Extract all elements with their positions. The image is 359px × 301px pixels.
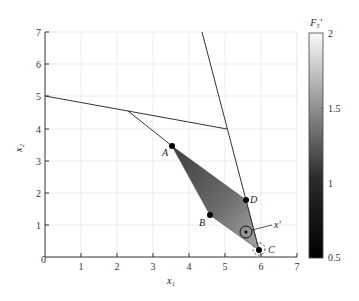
svg-text:4: 4	[36, 124, 41, 135]
svg-text:4: 4	[187, 261, 192, 272]
point-c	[256, 247, 262, 253]
svg-text:1: 1	[328, 178, 333, 189]
colorbar	[309, 33, 323, 258]
label-c: C	[268, 244, 275, 255]
label-xprime: x'	[273, 219, 281, 230]
svg-text:0: 0	[41, 254, 46, 265]
svg-text:1: 1	[36, 220, 41, 231]
svg-text:3: 3	[36, 156, 41, 167]
svg-text:6: 6	[259, 261, 264, 272]
svg-text:0.5: 0.5	[328, 252, 341, 263]
point-d	[243, 197, 249, 203]
chart: 7 6 5 4 3 2 1 0 1 2 3 4 5 6 7 x₁ x₂ A D …	[0, 0, 359, 301]
label-a: A	[161, 147, 169, 158]
svg-text:5: 5	[223, 261, 228, 272]
colorbar-label: F₅'	[309, 17, 323, 28]
label-d: D	[249, 194, 258, 205]
point-xprime	[245, 231, 248, 234]
point-a	[169, 143, 175, 149]
xprime-pointer	[252, 225, 272, 230]
y-axis-label: x₂	[13, 144, 24, 153]
svg-text:7: 7	[36, 27, 41, 38]
x-axis-label: x₁	[166, 275, 175, 286]
svg-text:2: 2	[36, 188, 41, 199]
svg-text:3: 3	[151, 261, 156, 272]
point-b	[207, 212, 213, 218]
svg-text:5: 5	[36, 91, 41, 102]
svg-text:7: 7	[295, 261, 300, 272]
svg-text:1: 1	[79, 261, 84, 272]
x-tick-labels: 1 2 3 4 5 6 7	[79, 261, 300, 272]
svg-text:1.5: 1.5	[328, 103, 341, 114]
svg-text:6: 6	[36, 59, 41, 70]
svg-text:2: 2	[328, 28, 333, 39]
label-b: B	[199, 217, 205, 228]
svg-text:2: 2	[115, 261, 120, 272]
colorbar-tick-labels: 2 1.5 1 0.5	[328, 28, 341, 263]
